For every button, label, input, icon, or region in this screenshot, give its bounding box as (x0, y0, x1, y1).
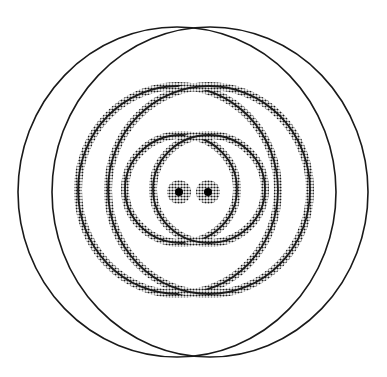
point-sources (167, 180, 220, 204)
wavefront-rings (18, 27, 368, 357)
interference-diagram (0, 0, 387, 377)
source-right-dot (204, 188, 212, 196)
source-left-dot (175, 188, 183, 196)
